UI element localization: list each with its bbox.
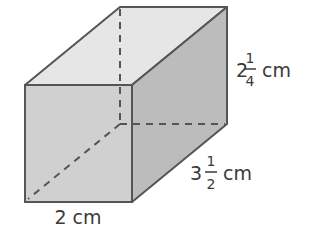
width-label: 2 cm <box>54 206 101 228</box>
svg-text:1: 1 <box>207 153 216 169</box>
svg-text:cm: cm <box>223 162 252 184</box>
prism-diagram: 2 1 4 cm 3 1 2 cm 2 cm <box>0 0 313 235</box>
depth-label: 3 1 2 cm <box>190 153 252 192</box>
svg-text:1: 1 <box>246 50 255 66</box>
height-label: 2 1 4 cm <box>236 50 291 89</box>
front-face <box>25 85 132 202</box>
svg-text:cm: cm <box>262 59 291 81</box>
svg-text:2: 2 <box>207 176 216 192</box>
svg-text:4: 4 <box>246 73 255 89</box>
svg-text:3: 3 <box>190 162 202 184</box>
